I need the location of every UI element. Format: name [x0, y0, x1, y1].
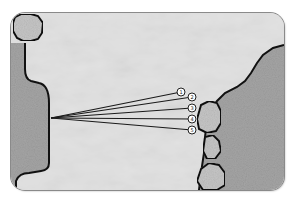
marker-1[interactable]: 1 — [177, 88, 185, 96]
rock-right-1 — [197, 101, 221, 133]
marker-2[interactable]: 2 — [188, 93, 196, 101]
marker-4[interactable]: 4 — [188, 115, 196, 123]
diagram-card: 1 2 3 4 5 — [11, 13, 284, 190]
marker-4-label: 4 — [190, 116, 193, 122]
diagram-canvas: 1 2 3 4 5 — [11, 13, 284, 190]
marker-3[interactable]: 3 — [188, 104, 196, 112]
rock-top-left — [13, 14, 43, 41]
marker-1-label: 1 — [179, 89, 182, 95]
marker-2-label: 2 — [190, 94, 193, 100]
marker-3-label: 3 — [190, 105, 193, 111]
marker-5[interactable]: 5 — [188, 126, 196, 134]
marker-5-label: 5 — [190, 127, 193, 133]
